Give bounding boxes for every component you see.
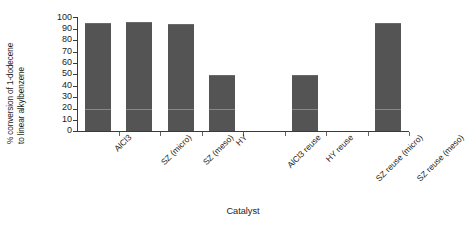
y-tick-mark: [73, 29, 77, 30]
y-tick-mark: [73, 17, 77, 18]
y-tick-label: 60: [50, 58, 72, 67]
y-tick-mark: [73, 74, 77, 75]
y-axis-line: [77, 17, 78, 132]
y-tick-label: 70: [50, 47, 72, 56]
bar: [209, 75, 235, 131]
y-axis-title-line-1: % conversion of 1-dodecene: [6, 43, 15, 144]
y-axis-tick-labels: 100 90 80 70 60 50 40 30 20 10 0: [48, 0, 72, 150]
y-tick-label: 10: [50, 115, 72, 124]
x-tick-label: AlCl3 reuse: [285, 133, 322, 170]
x-tick-label: HY: [235, 133, 250, 148]
bar: [375, 23, 401, 131]
y-tick-label: 40: [50, 81, 72, 90]
x-axis-title: Catalyst: [77, 206, 409, 216]
x-tick-label: SZ (micro): [160, 133, 194, 167]
y-tick-label: 0: [50, 126, 72, 135]
y-tick-mark: [73, 120, 77, 121]
y-tick-label: 20: [50, 103, 72, 112]
bar: [85, 23, 111, 131]
y-tick-mark: [73, 86, 77, 87]
y-tick-mark: [73, 40, 77, 41]
y-tick-label: 30: [50, 92, 72, 101]
y-tick-label: 50: [50, 69, 72, 78]
y-axis-title: % conversion of 1-dodecene to linear alk…: [0, 0, 40, 150]
x-tick-label: AlCl3: [113, 133, 134, 154]
y-tick-mark: [73, 131, 77, 132]
plot-area: [77, 17, 409, 132]
x-tick-label: SZ (meso): [201, 133, 235, 167]
y-tick-mark: [73, 109, 77, 110]
bar: [168, 24, 194, 131]
y-tick-label: 80: [50, 35, 72, 44]
y-tick-label: 90: [50, 24, 72, 33]
y-tick-mark: [73, 97, 77, 98]
y-tick-mark: [73, 52, 77, 53]
bar: [292, 75, 318, 131]
y-tick-label: 100: [50, 13, 72, 22]
y-axis-title-line-2: to linear alkylbenzene: [17, 4, 28, 144]
x-tick-label: HY reuse: [324, 133, 355, 164]
bar: [126, 22, 152, 131]
y-tick-mark: [73, 63, 77, 64]
x-axis-tick-labels: AlCl3SZ (micro)SZ (meso)HYAlCl3 reuseHY …: [77, 133, 417, 203]
